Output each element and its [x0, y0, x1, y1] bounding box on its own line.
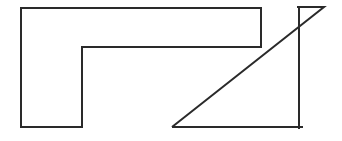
- l-shaped-polygon: [21, 8, 261, 127]
- triangle-diagonal-and-cap: [172, 7, 324, 127]
- diagram-canvas: [0, 0, 342, 141]
- diagram-svg: [0, 0, 342, 141]
